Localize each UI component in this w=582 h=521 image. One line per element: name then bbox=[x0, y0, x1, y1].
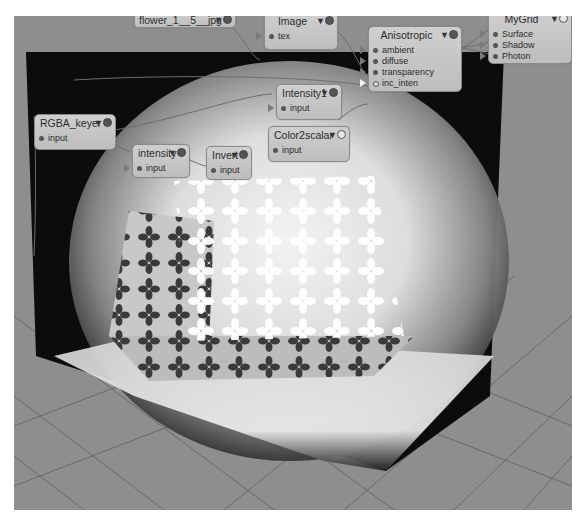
input-arrow-icon bbox=[360, 46, 366, 54]
node-controls[interactable]: ▼ bbox=[550, 16, 568, 25]
port-input[interactable]: input bbox=[277, 103, 341, 114]
port-transparency[interactable]: transparency bbox=[369, 67, 461, 78]
node-intensity1[interactable]: Intensity1 ▼ input bbox=[276, 84, 342, 120]
node-invert[interactable]: Invert ▼ input bbox=[206, 146, 252, 180]
menu-triangle-icon[interactable]: ▼ bbox=[440, 29, 448, 41]
port-ambient[interactable]: ambient bbox=[369, 45, 461, 56]
node-controls[interactable]: ▼ bbox=[168, 147, 186, 159]
menu-triangle-icon[interactable]: ▼ bbox=[230, 149, 238, 161]
node-intensity[interactable]: intensity ▼ input bbox=[132, 144, 190, 178]
port-diffuse[interactable]: diffuse bbox=[369, 56, 461, 67]
node-image[interactable]: Image ▼ tex bbox=[264, 16, 338, 50]
toggle-circle-icon[interactable] bbox=[239, 150, 248, 159]
node-rgba-keyer[interactable]: RGBA_keyer ▼ input bbox=[34, 114, 116, 150]
port-shadow[interactable]: Shadow bbox=[489, 40, 571, 51]
input-arrow-icon bbox=[480, 41, 486, 49]
toggle-circle-icon[interactable] bbox=[325, 16, 334, 25]
menu-triangle-icon[interactable]: ▼ bbox=[328, 129, 336, 141]
node-controls[interactable]: ▼ bbox=[94, 117, 112, 129]
menu-triangle-icon[interactable]: ▼ bbox=[316, 16, 324, 27]
toggle-circle-icon[interactable] bbox=[559, 16, 568, 23]
node-controls[interactable]: ▼ bbox=[316, 16, 334, 27]
port-input[interactable]: input bbox=[207, 165, 251, 176]
input-arrow-icon bbox=[256, 32, 262, 40]
toggle-circle-icon[interactable] bbox=[223, 16, 232, 24]
port-input[interactable]: input bbox=[35, 133, 115, 144]
input-arrow-icon bbox=[480, 52, 486, 60]
port-photon[interactable]: Photon bbox=[489, 51, 571, 62]
node-controls[interactable]: ▼ bbox=[214, 16, 232, 26]
node-anisotropic[interactable]: Anisotropic ▼ ambient diffuse transparen… bbox=[368, 26, 462, 92]
port-input[interactable]: input bbox=[269, 145, 349, 156]
input-arrow-icon bbox=[268, 104, 274, 112]
toggle-circle-icon[interactable] bbox=[449, 30, 458, 39]
toggle-circle-icon[interactable] bbox=[337, 130, 346, 139]
node-mygrid[interactable]: MyGrid ▼ Surface Shadow Photon bbox=[488, 16, 572, 64]
menu-triangle-icon[interactable]: ▼ bbox=[94, 117, 102, 129]
input-arrow-icon bbox=[360, 79, 366, 87]
input-arrow-icon bbox=[124, 164, 130, 172]
node-controls[interactable]: ▼ bbox=[328, 129, 346, 141]
port-surface[interactable]: Surface bbox=[489, 29, 571, 40]
node-flower-image-file[interactable]: flower_1__5__jpg ▼ bbox=[134, 16, 236, 28]
input-arrow-icon bbox=[480, 30, 486, 38]
toggle-circle-icon[interactable] bbox=[103, 118, 112, 127]
port-input[interactable]: input bbox=[133, 163, 189, 174]
toggle-circle-icon[interactable] bbox=[177, 148, 186, 157]
node-controls[interactable]: ▼ bbox=[440, 29, 458, 41]
input-arrow-icon bbox=[360, 57, 366, 65]
menu-triangle-icon[interactable]: ▼ bbox=[550, 16, 558, 25]
node-controls[interactable]: ▼ bbox=[320, 87, 338, 99]
port-inc-inten[interactable]: inc_inten bbox=[369, 78, 461, 89]
menu-triangle-icon[interactable]: ▼ bbox=[320, 87, 328, 99]
render-viewport[interactable]: flower_1__5__jpg ▼ Image ▼ tex Anisotrop… bbox=[14, 16, 572, 510]
node-controls[interactable]: ▼ bbox=[230, 149, 248, 161]
menu-triangle-icon[interactable]: ▼ bbox=[168, 147, 176, 159]
port-tex[interactable]: tex bbox=[265, 31, 337, 42]
input-arrow-icon bbox=[360, 68, 366, 76]
toggle-circle-icon[interactable] bbox=[329, 88, 338, 97]
node-color2scalar[interactable]: Color2scalar ▼ input bbox=[268, 126, 350, 162]
menu-triangle-icon[interactable]: ▼ bbox=[214, 16, 222, 26]
